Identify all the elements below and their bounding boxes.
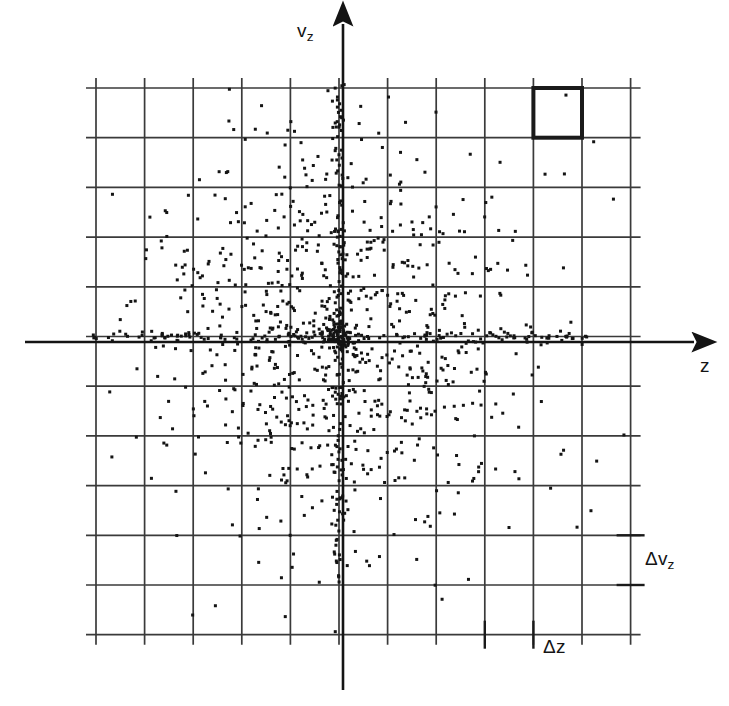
- scatter-point: [364, 400, 367, 403]
- scatter-point: [479, 337, 482, 340]
- scatter-point: [419, 243, 422, 246]
- scatter-point: [479, 295, 482, 298]
- scatter-point: [471, 272, 474, 275]
- scatter-point: [229, 253, 232, 256]
- scatter-point: [275, 416, 278, 419]
- scatter-point: [555, 335, 558, 338]
- scatter-point: [409, 399, 412, 402]
- scatter-point: [246, 237, 249, 240]
- scatter-point: [415, 558, 418, 561]
- scatter-point: [414, 518, 417, 521]
- scatter-point: [295, 400, 298, 403]
- scatter-point: [291, 566, 294, 569]
- scatter-point: [296, 245, 299, 248]
- scatter-point: [494, 402, 497, 405]
- phase-space-figure: vz z Δvz Δz: [0, 0, 729, 706]
- scatter-point: [271, 408, 274, 411]
- scatter-point: [333, 509, 336, 512]
- scatter-point: [345, 323, 348, 326]
- scatter-point: [299, 219, 302, 222]
- scatter-point: [304, 173, 307, 176]
- scatter-point: [414, 299, 417, 302]
- scatter-point: [379, 369, 382, 372]
- scatter-point: [265, 293, 268, 296]
- scatter-point: [396, 334, 399, 337]
- scatter-point: [612, 198, 615, 201]
- scatter-point: [203, 400, 206, 403]
- scatter-point: [325, 308, 328, 311]
- scatter-point: [369, 297, 372, 300]
- scatter-point: [309, 446, 312, 449]
- scatter-point: [453, 405, 456, 408]
- scatter-point: [252, 242, 255, 245]
- scatter-point: [592, 140, 595, 143]
- scatter-point: [428, 215, 431, 218]
- scatter-point: [540, 343, 543, 346]
- scatter-point: [423, 520, 426, 523]
- scatter-point: [273, 396, 276, 399]
- scatter-point: [323, 195, 326, 198]
- scatter-point: [363, 221, 366, 224]
- scatter-point: [349, 424, 352, 427]
- scatter-point: [359, 105, 362, 108]
- scatter-point: [239, 442, 242, 445]
- scatter-point: [337, 289, 340, 292]
- scatter-point: [324, 203, 327, 206]
- scatter-point: [269, 311, 272, 314]
- scatter-point: [286, 129, 289, 132]
- scatter-point: [253, 256, 256, 259]
- scatter-point: [311, 179, 314, 182]
- scatter-point: [280, 255, 283, 258]
- scatter-point: [360, 259, 363, 262]
- scatter-point: [338, 201, 341, 204]
- scatter-point: [267, 282, 270, 285]
- scatter-point: [334, 398, 337, 401]
- scatter-point: [429, 227, 432, 230]
- scatter-point: [480, 404, 483, 407]
- scatter-point: [338, 271, 341, 274]
- scatter-point: [324, 268, 327, 271]
- scatter-point: [395, 448, 398, 451]
- scatter-point: [160, 239, 163, 242]
- scatter-point: [265, 310, 268, 313]
- scatter-point: [334, 391, 337, 394]
- scatter-point: [237, 436, 240, 439]
- scatter-point: [232, 128, 235, 131]
- scatter-point: [257, 347, 260, 350]
- scatter-point: [559, 453, 562, 456]
- scatter-point: [444, 294, 447, 297]
- scatter-point: [453, 367, 456, 370]
- scatter-point: [279, 289, 282, 292]
- scatter-point: [362, 287, 365, 290]
- scatter-point: [505, 336, 508, 339]
- scatter-point: [328, 328, 331, 331]
- cell-width-label: Δz: [543, 636, 566, 658]
- scatter-point: [477, 347, 480, 350]
- scatter-point: [571, 337, 574, 340]
- scatter-point: [228, 88, 231, 91]
- scatter-point: [442, 368, 445, 371]
- scatter-point: [322, 399, 325, 402]
- y-axis-label-text: v: [297, 20, 307, 41]
- scatter-point: [280, 479, 283, 482]
- scatter-point: [292, 553, 295, 556]
- scatter-point: [174, 347, 177, 350]
- scatter-point: [335, 503, 338, 506]
- scatter-point: [537, 366, 540, 369]
- scatter-point: [173, 377, 176, 380]
- scatter-point: [311, 506, 314, 509]
- scatter-point: [403, 408, 406, 411]
- scatter-point: [333, 471, 336, 474]
- scatter-point: [412, 276, 415, 279]
- scatter-point: [350, 162, 353, 165]
- scatter-point: [194, 453, 197, 456]
- scatter-point: [323, 407, 326, 410]
- scatter-point: [435, 489, 438, 492]
- scatter-point: [426, 515, 429, 518]
- scatter-point: [447, 481, 450, 484]
- scatter-point: [410, 220, 413, 223]
- scatter-point: [306, 399, 309, 402]
- scatter-point: [430, 413, 433, 416]
- scatter-point: [471, 402, 474, 405]
- scatter-point: [150, 477, 153, 480]
